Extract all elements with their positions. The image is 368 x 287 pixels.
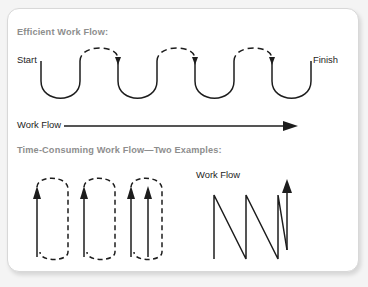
loop-example [33,178,162,259]
loop-arrowheads [33,186,152,199]
diagram-canvas [8,9,358,271]
efficient-solid-troughs [41,61,311,98]
efficient-dashed-arcs [80,48,272,61]
loop-dashed-returns [37,178,162,259]
figure-card: Efficient Work Flow: Start Finish Work F… [7,8,359,272]
efficient-arrowheads [115,57,275,65]
workflow-arrow-top [64,121,298,131]
figure-page: Efficient Work Flow: Start Finish Work F… [0,0,368,287]
loop-solid-arrows [37,196,148,257]
sawtooth-example [214,179,292,259]
